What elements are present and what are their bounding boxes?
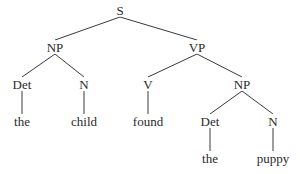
node-n-object: N: [267, 115, 278, 128]
node-det-object: Det: [200, 115, 221, 128]
node-np-subject: NP: [46, 41, 65, 54]
node-vp: VP: [188, 41, 207, 54]
word-child: child: [70, 115, 98, 128]
node-v: V: [142, 78, 153, 91]
tree-edge: [55, 54, 84, 77]
tree-edge: [242, 91, 273, 114]
node-det-subject: Det: [12, 78, 33, 91]
word-found: found: [132, 115, 164, 128]
tree-edge: [148, 54, 197, 77]
tree-edge: [55, 17, 120, 40]
tree-edge: [22, 54, 55, 77]
tree-edge: [197, 54, 242, 77]
word-puppy: puppy: [256, 152, 291, 165]
node-n-subject: N: [78, 78, 89, 91]
tree-edge: [120, 17, 197, 40]
word-the-object: the: [201, 152, 219, 165]
node-s: S: [115, 4, 124, 17]
node-np-object: NP: [233, 78, 252, 91]
tree-edge: [210, 91, 242, 114]
word-the-subject: the: [13, 115, 31, 128]
